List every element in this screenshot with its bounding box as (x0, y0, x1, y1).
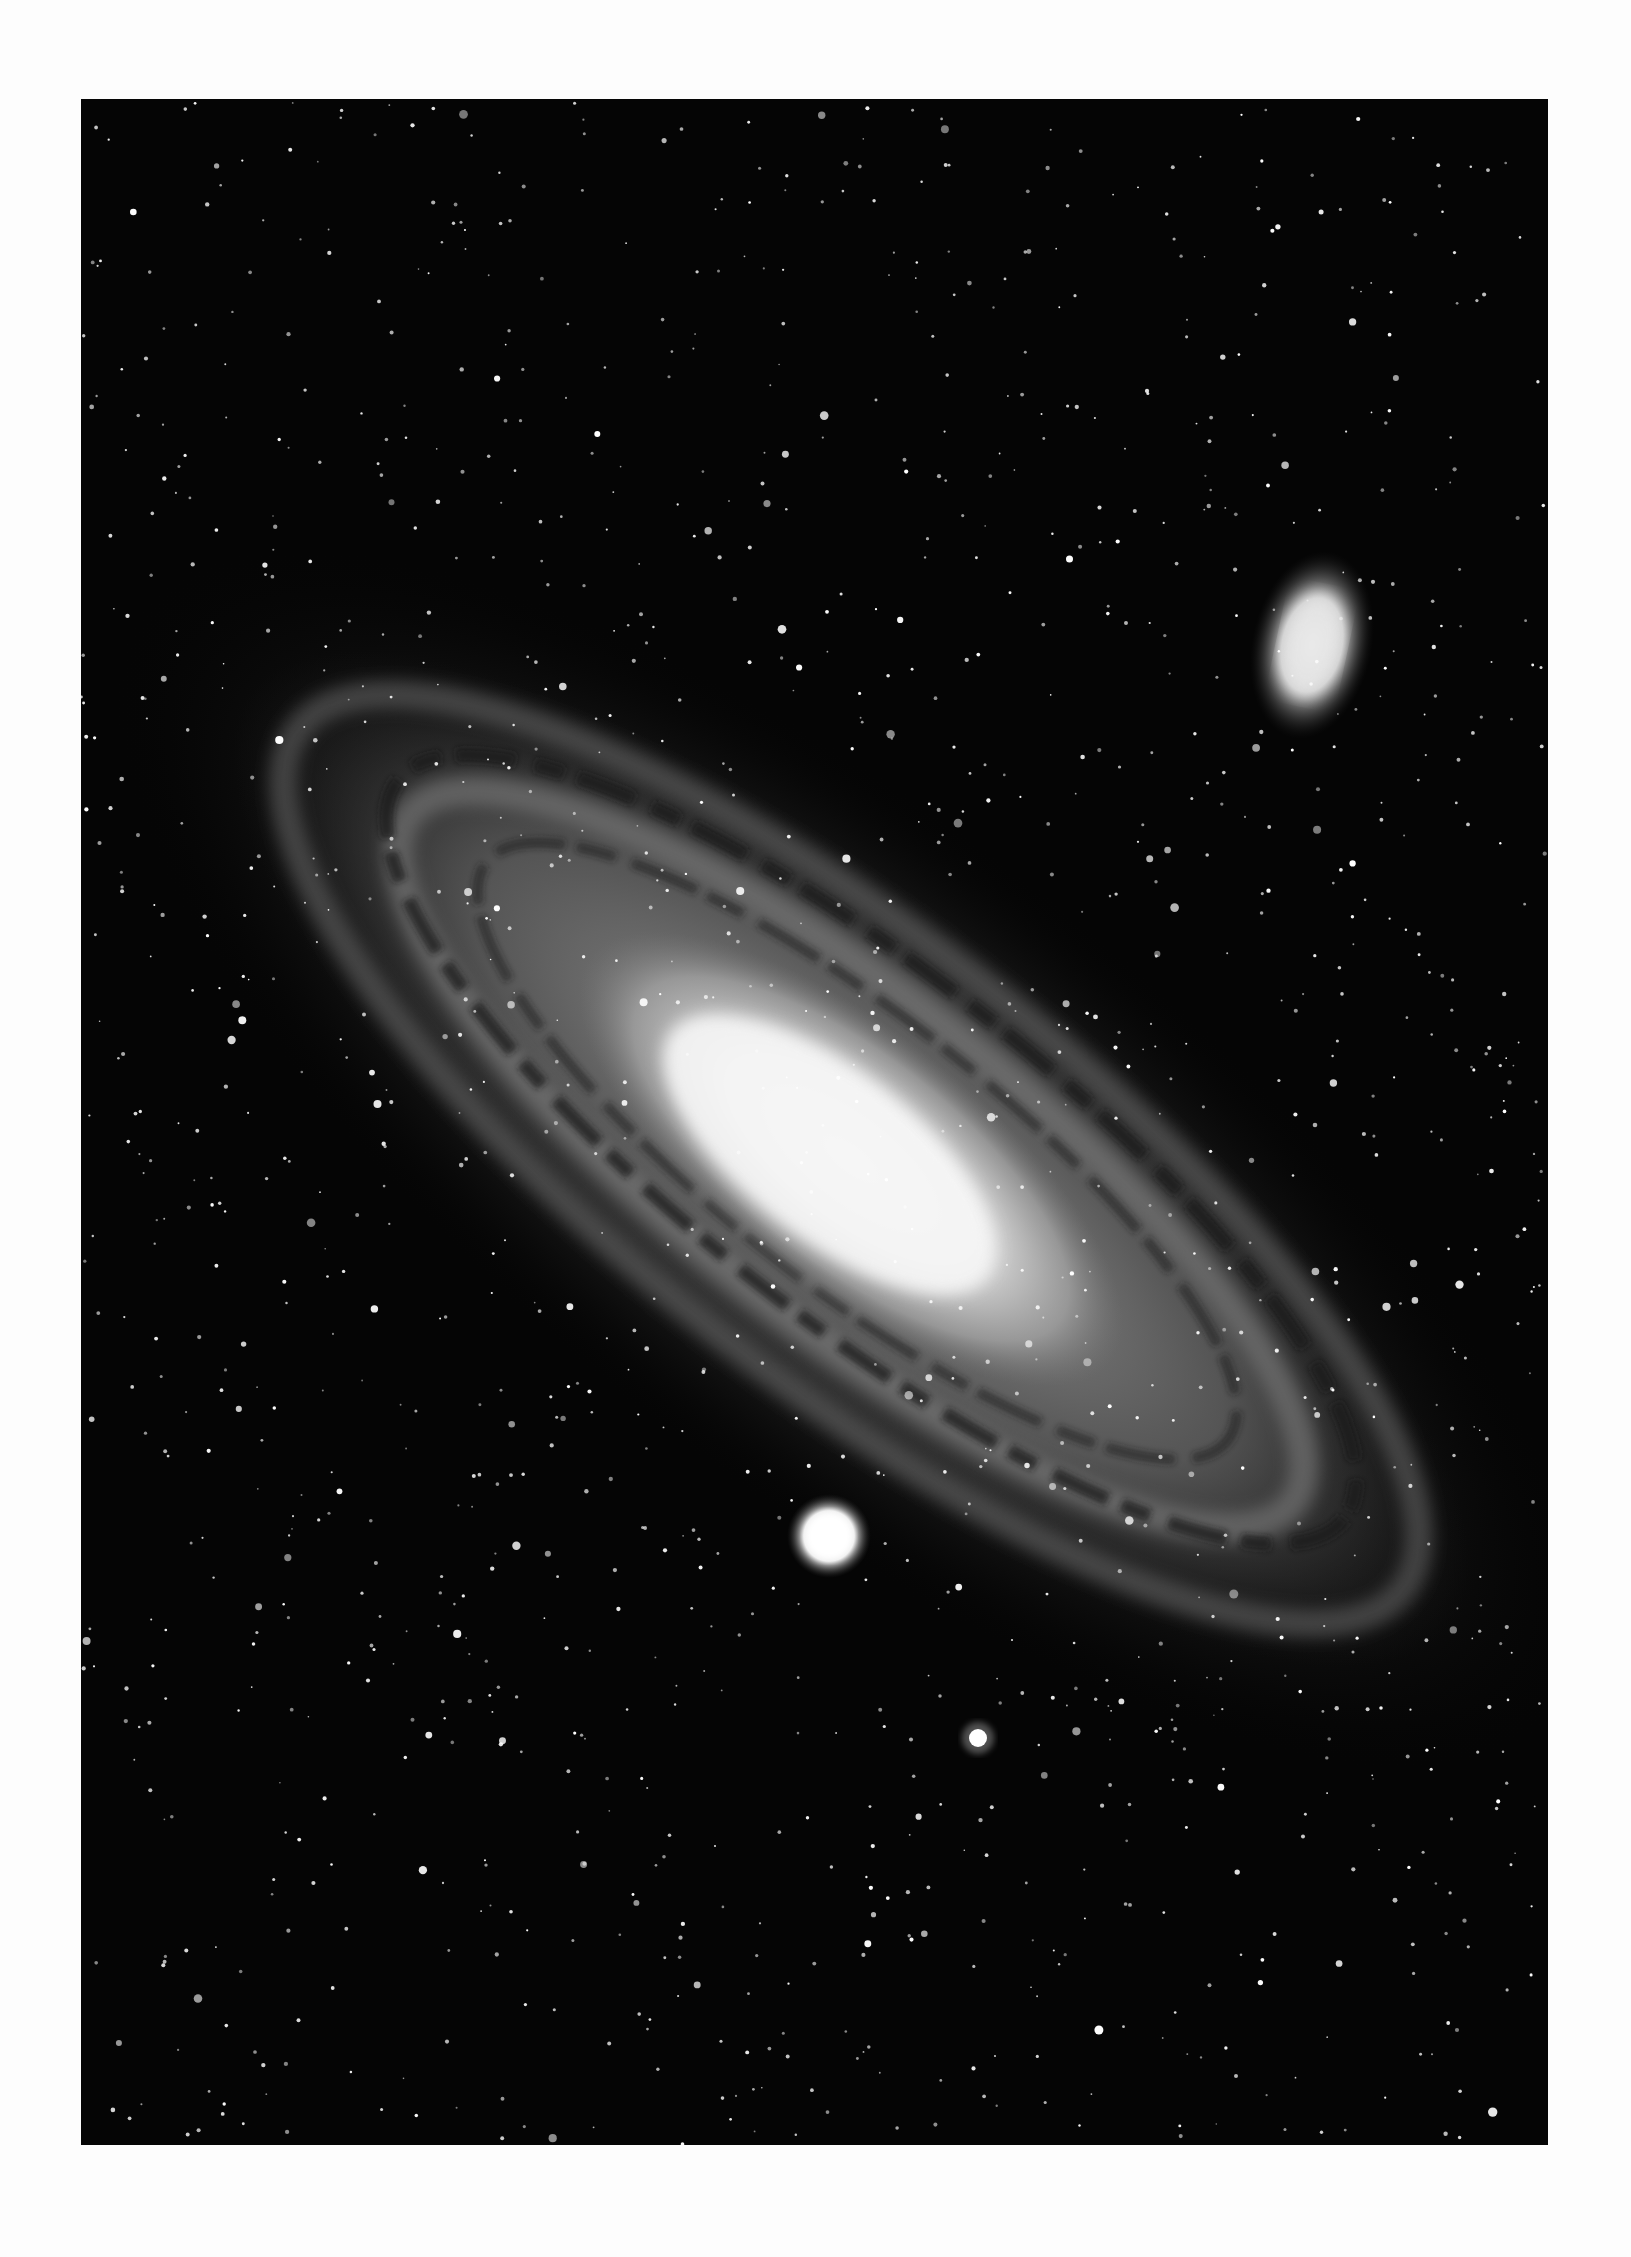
galaxy-svg (81, 99, 1548, 2145)
upper-right-satellite (1234, 540, 1391, 751)
lower-satellite (787, 1494, 871, 1578)
galaxy-photograph (81, 99, 1548, 2145)
bright-star (962, 1722, 994, 1754)
